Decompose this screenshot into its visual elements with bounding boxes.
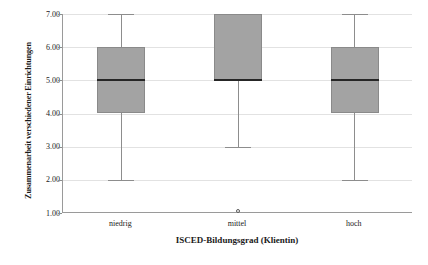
- y-tick-mark: [58, 147, 62, 148]
- whisker-cap-upper: [342, 14, 368, 15]
- y-tick-mark: [58, 180, 62, 181]
- median-line: [331, 79, 379, 81]
- y-tick-mark: [58, 213, 62, 214]
- y-tick-label: 6.00: [32, 43, 60, 52]
- x-tick-label: hoch: [346, 219, 362, 228]
- y-tick-mark: [58, 114, 62, 115]
- box-plot-figure: Zusammenarbeit verschiedener Einrichtung…: [0, 0, 428, 265]
- y-tick-mark: [58, 80, 62, 81]
- x-tick-label: mittel: [228, 219, 247, 228]
- y-tick-label: 7.00: [32, 10, 60, 19]
- box-plot-group: [63, 14, 413, 212]
- y-tick-label: 1.00: [32, 209, 60, 218]
- y-tick-mark: [58, 14, 62, 15]
- x-axis-title: ISCED-Bildungsgrad (Klientin): [62, 235, 412, 245]
- y-axis-tick-labels: 1.002.003.004.005.006.007.00: [32, 0, 60, 265]
- y-tick-label: 3.00: [32, 142, 60, 151]
- y-tick-label: 4.00: [32, 109, 60, 118]
- y-tick-mark: [58, 47, 62, 48]
- plot-area: [62, 14, 412, 213]
- y-tick-label: 2.00: [32, 175, 60, 184]
- x-tick-label: niedrig: [109, 219, 132, 228]
- y-tick-label: 5.00: [32, 76, 60, 85]
- whisker-cap-lower: [342, 180, 368, 181]
